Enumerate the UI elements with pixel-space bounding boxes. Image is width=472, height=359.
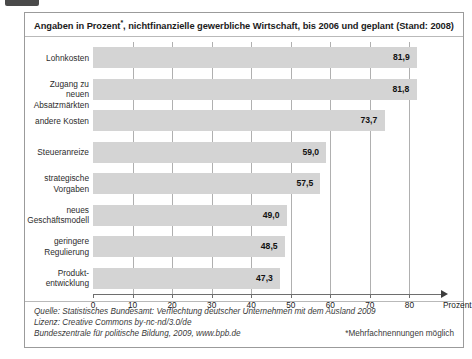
category-label: Steueranreize	[37, 147, 89, 158]
bar	[93, 236, 285, 257]
bar-value-label: 81,8	[391, 85, 413, 94]
x-tick-70	[370, 294, 371, 298]
x-tick-40	[251, 294, 252, 298]
bar-value-label: 73,7	[359, 116, 381, 125]
category-label: andere Kosten	[35, 116, 89, 127]
bar-value-label: 59,0	[300, 148, 322, 157]
window-tab-fragment	[5, 0, 39, 6]
x-tick-label-50: 50	[286, 300, 295, 310]
bar	[93, 173, 320, 194]
category-label: neues Geschäftsmodell	[27, 205, 89, 226]
title-divider	[25, 36, 463, 37]
x-tick-label-70: 70	[365, 300, 374, 310]
x-tick-label-10: 10	[128, 300, 137, 310]
chart-figure: Angaben in Prozent*, nichtfinanzielle ge…	[24, 12, 464, 348]
category-axis-labels: LohnkostenZugang zu neuen Absatzmärktena…	[31, 42, 89, 294]
category-label: Lohnkosten	[46, 53, 89, 64]
plot-area: 81,981,873,759,057,549,048,547,3	[93, 42, 449, 294]
category-label: Produkt- entwicklung	[46, 268, 89, 289]
bar-value-label: 57,5	[294, 179, 316, 188]
x-tick-label-0: 0	[91, 300, 96, 310]
x-tick-20	[172, 294, 173, 298]
category-label: strategische Vorgaben	[44, 173, 89, 194]
bar	[93, 205, 287, 226]
x-tick-label-40: 40	[247, 300, 256, 310]
bar	[93, 79, 417, 100]
bar-value-label: 49,0	[261, 211, 283, 220]
source-line-1: Quelle: Statistisches Bundesamt: Verflec…	[34, 307, 376, 316]
x-tick-30	[212, 294, 213, 298]
bar	[93, 110, 385, 131]
x-tick-label-80: 80	[405, 300, 414, 310]
x-tick-80	[409, 294, 410, 298]
chart-footnote: *Mehrfachnennungen möglich	[345, 329, 454, 338]
x-tick-10	[133, 294, 134, 298]
category-label: Zugang zu neuen Absatzmärkten	[31, 79, 89, 111]
bar-value-label: 48,5	[259, 242, 281, 251]
bar	[93, 268, 280, 289]
x-tick-label-60: 60	[326, 300, 335, 310]
x-tick-0	[93, 294, 94, 298]
x-tick-60	[330, 294, 331, 298]
x-tick-label-20: 20	[167, 300, 176, 310]
x-tick-50	[291, 294, 292, 298]
x-tick-label-30: 30	[207, 300, 216, 310]
source-line-3: Bundeszentrale für politische Bildung, 2…	[34, 329, 241, 338]
bar-value-label: 81,9	[391, 53, 413, 62]
x-axis-line	[93, 294, 443, 295]
bar	[93, 47, 417, 68]
category-label: geringere Regulierung	[44, 236, 89, 257]
bar	[93, 142, 326, 163]
x-axis-arrow-icon	[441, 290, 448, 298]
chart-title: Angaben in Prozent*, nichtfinanzielle ge…	[34, 19, 454, 31]
bar-value-label: 47,3	[254, 274, 276, 283]
source-line-2: Lizenz: Creative Commons by-nc-nd/3.0/de	[34, 318, 191, 327]
